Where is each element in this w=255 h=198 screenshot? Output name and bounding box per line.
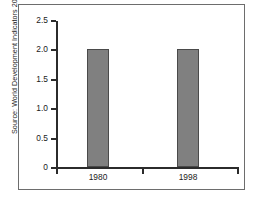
- y-axis-tick: [51, 108, 56, 110]
- x-axis-category-label: 1998: [166, 173, 210, 182]
- y-axis-label-cell: 1.0: [26, 104, 48, 113]
- y-axis-tick-label: 1.5: [26, 75, 48, 83]
- y-axis-tick-label: 1.0: [26, 104, 48, 112]
- y-axis-tick-label: 2.0: [26, 45, 48, 53]
- y-axis-tick-label: 2.5: [26, 16, 48, 24]
- y-axis-tick-label: 0.5: [26, 134, 48, 142]
- y-axis-tick: [51, 49, 56, 51]
- x-axis-tick: [56, 169, 58, 174]
- y-axis-line: [56, 21, 58, 169]
- y-axis-tick-label: 0: [26, 163, 48, 171]
- x-axis-line: [56, 167, 239, 169]
- y-axis-label-cell: 1.5: [26, 75, 48, 84]
- x-axis-tick: [237, 169, 239, 174]
- y-axis-label-cell: 0.5: [26, 134, 48, 143]
- y-axis-label-cell: 0: [26, 163, 48, 172]
- y-axis-label-cell: 2.5: [26, 16, 48, 25]
- chart-frame-border: [18, 4, 245, 190]
- y-axis-tick: [51, 20, 56, 22]
- y-axis-label-cell: 2.0: [26, 45, 48, 54]
- y-axis-tick: [51, 138, 56, 140]
- bar-1980: [87, 49, 109, 167]
- chart-figure: Source: World Development Indicators 200…: [0, 0, 255, 198]
- y-axis-tick: [51, 79, 56, 81]
- x-axis-category-label: 1980: [76, 173, 120, 182]
- x-axis-tick: [142, 169, 144, 174]
- bar-1998: [177, 49, 199, 167]
